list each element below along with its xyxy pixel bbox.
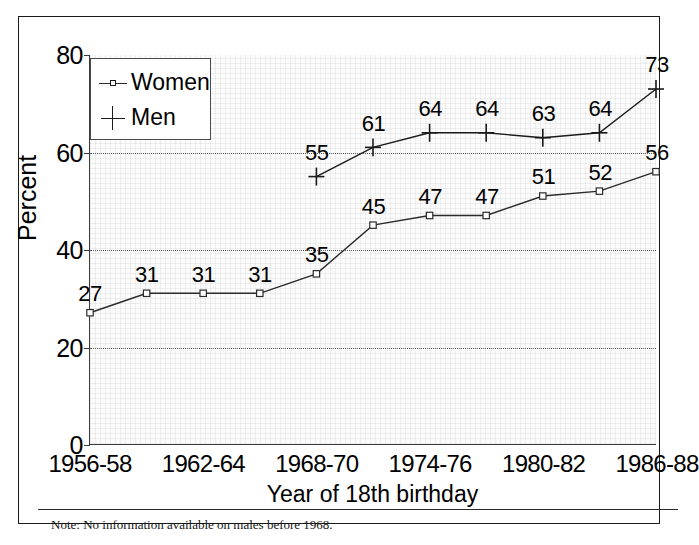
data-marker-women: [596, 188, 602, 194]
legend-item-women: Women: [99, 65, 210, 100]
chart-legend: Women Men: [90, 58, 211, 140]
legend-item-men: Men: [99, 100, 210, 135]
data-value-label: 31: [135, 262, 158, 288]
data-value-label: 47: [418, 184, 441, 210]
data-marker-women: [653, 169, 659, 175]
data-value-label: 27: [78, 281, 101, 307]
data-value-label: 64: [589, 96, 612, 122]
note-divider: [38, 509, 678, 510]
data-marker-men: [648, 80, 664, 98]
data-marker-women: [87, 310, 93, 316]
data-value-label: 55: [305, 140, 328, 166]
data-value-label: 52: [589, 160, 612, 186]
data-value-label: 63: [532, 101, 555, 127]
women-marker-icon: [99, 73, 129, 93]
data-marker-men: [308, 168, 324, 186]
y-tick-label: 60: [56, 138, 83, 167]
figure-frame: 020406080 1956-581962-641968-701974-7619…: [18, 16, 660, 524]
x-tick-label: 1974-76: [389, 450, 472, 478]
data-marker-women: [200, 290, 206, 296]
data-marker-women: [370, 222, 376, 228]
data-marker-men: [365, 138, 381, 156]
data-value-label: 61: [362, 111, 385, 137]
x-tick-label: 1968-70: [275, 450, 358, 478]
data-value-label: 64: [475, 96, 498, 122]
data-marker-women: [257, 290, 263, 296]
x-tick-label: 1962-64: [162, 450, 245, 478]
data-value-label: 45: [362, 194, 385, 220]
figure-note: Note: No information available on males …: [51, 517, 333, 533]
data-value-label: 56: [645, 140, 668, 166]
x-tick-label: 1980-82: [502, 450, 585, 478]
x-axis-title: Year of 18th birthday: [89, 481, 656, 508]
y-tick-mark: [84, 445, 90, 446]
data-marker-men: [422, 124, 438, 142]
x-tick-label: 1986-88: [615, 450, 698, 478]
data-marker-men: [591, 124, 607, 142]
data-marker-women: [143, 290, 149, 296]
data-marker-women: [540, 193, 546, 199]
x-tick-label: 1956-58: [48, 450, 131, 478]
y-tick-label: 40: [56, 236, 83, 265]
data-marker-men: [535, 129, 551, 147]
data-value-label: 47: [475, 184, 498, 210]
y-axis-title: Percent: [13, 155, 42, 241]
men-marker-icon: [99, 108, 129, 128]
data-value-label: 51: [532, 164, 555, 190]
legend-label-women: Women: [131, 71, 210, 94]
data-marker-women: [426, 212, 432, 218]
data-marker-women: [313, 271, 319, 277]
legend-label-men: Men: [131, 106, 176, 129]
data-value-label: 31: [248, 262, 271, 288]
data-marker-women: [483, 212, 489, 218]
data-value-label: 64: [418, 96, 441, 122]
data-value-label: 35: [305, 242, 328, 268]
data-value-label: 31: [192, 262, 215, 288]
y-tick-label: 20: [56, 333, 83, 362]
data-marker-men: [478, 124, 494, 142]
data-value-label: 73: [645, 52, 668, 78]
y-tick-label: 80: [56, 41, 83, 70]
